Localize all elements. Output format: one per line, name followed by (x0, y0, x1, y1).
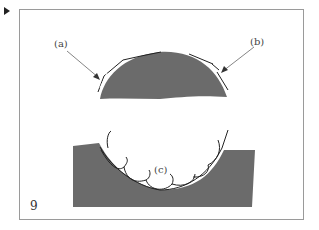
label-b: (b) (250, 36, 264, 47)
dome-shape (100, 52, 227, 99)
arrow-a (67, 51, 99, 78)
substrate-shape (73, 143, 255, 207)
label-a: (a) (54, 38, 68, 49)
figure-number: 9 (30, 199, 38, 213)
label-c: (c) (154, 164, 167, 175)
arrow-b (223, 47, 254, 71)
diagram-graphic (0, 0, 319, 230)
